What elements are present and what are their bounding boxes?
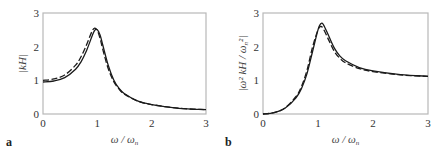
x-tick-label: 3 — [203, 117, 209, 129]
x-tick-label: 0 — [40, 117, 46, 129]
y-tick-label: 3 — [34, 7, 40, 19]
plot-frame — [263, 13, 428, 114]
x-tick-label: 1 — [315, 117, 321, 129]
y-tick-label: 1 — [34, 74, 40, 86]
x-tick-label: 2 — [370, 117, 376, 129]
plot-frame — [43, 13, 206, 114]
x-tick-label: 2 — [149, 117, 155, 129]
y-tick-label: 0 — [254, 108, 260, 120]
y-axis-label: |kH| — [16, 54, 28, 73]
panel-a: 01230123ω / ωna|kH| — [0, 0, 219, 151]
solid-curve — [43, 29, 206, 109]
solid-curve — [263, 23, 428, 114]
y-tick-label: 0 — [34, 108, 40, 120]
x-axis-label: ω / ωn — [111, 133, 139, 147]
dashed-curve — [263, 26, 428, 114]
panel-b: 01230123ω / ωnb|ω² kH / ωn²| — [219, 0, 438, 151]
y-axis-label: |ω² kH / ωn²| — [236, 36, 250, 92]
y-tick-label: 2 — [254, 41, 260, 53]
y-tick-label: 2 — [34, 41, 40, 53]
dashed-curve — [43, 28, 206, 109]
y-tick-label: 1 — [254, 74, 260, 86]
y-tick-label: 3 — [254, 7, 260, 19]
panel-letter: a — [6, 135, 12, 149]
chart-b: 01230123ω / ωnb|ω² kH / ωn²| — [219, 0, 438, 151]
x-tick-label: 0 — [260, 117, 266, 129]
x-tick-label: 3 — [425, 117, 431, 129]
x-tick-label: 1 — [95, 117, 101, 129]
panel-letter: b — [225, 135, 232, 149]
x-axis-label: ω / ωn — [332, 133, 360, 147]
chart-a: 01230123ω / ωna|kH| — [0, 0, 219, 151]
